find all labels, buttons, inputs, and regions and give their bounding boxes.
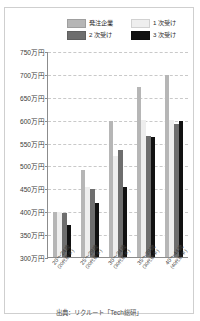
y-axis-tick [45,212,48,213]
chart-panel: 発注企業1 次受け2 次受け3 次受け 300万円350万円400万円450万円… [4,7,194,314]
y-axis-tick [45,98,48,99]
y-axis-tick [45,166,48,167]
bar [151,137,156,257]
y-axis-tick [45,144,48,145]
bar-groups [48,52,188,257]
legend-hacchu-kigyo: 発注企業 [67,19,131,28]
y-tick-label: 550万円 [20,139,45,149]
bar-group [81,52,99,257]
legend-3ji-uke-label: 3 次受け [153,32,176,38]
x-axis-labels: 20～24歳(20代前半)25～29歳(20代後半)30～34歳(30代前半)3… [47,260,188,308]
legend-1ji-uke-swatch [131,19,150,28]
y-tick-label: 650万円 [20,93,45,103]
source-note: 出典：リクルート「Tech総研」 [5,308,193,317]
legend-2ji-uke-label: 2 次受け [89,32,112,38]
legend-2ji-uke: 2 次受け [67,31,131,40]
chart-legend: 発注企業1 次受け2 次受け3 次受け [67,19,195,40]
bar-group [137,52,155,257]
plot-area [47,52,188,258]
legend-1ji-uke: 1 次受け [131,19,195,28]
y-tick-label: 300万円 [20,253,45,263]
bar-group [165,52,183,257]
bar-group [53,52,71,257]
y-tick-label: 500万円 [20,161,45,171]
bar-group [109,52,127,257]
y-tick-label: 700万円 [20,70,45,80]
y-tick-label: 400万円 [20,207,45,217]
legend-3ji-uke: 3 次受け [131,31,195,40]
y-axis-tick [45,75,48,76]
y-axis-tick [45,121,48,122]
y-axis-labels: 300万円350万円400万円450万円500万円550万円600万円650万円… [9,52,47,267]
y-tick-label: 350万円 [20,230,45,240]
y-tick-label: 450万円 [20,184,45,194]
legend-hacchu-kigyo-swatch [67,19,86,28]
y-axis-tick [45,189,48,190]
plot-area-wrapper: 300万円350万円400万円450万円500万円550万円600万円650万円… [9,52,191,267]
legend-hacchu-kigyo-label: 発注企業 [89,20,113,26]
y-tick-label: 750万円 [20,47,45,57]
legend-2ji-uke-swatch [67,31,86,40]
bar [179,121,184,257]
legend-1ji-uke-label: 1 次受け [153,20,176,26]
y-tick-label: 600万円 [20,116,45,126]
y-axis-tick [45,52,48,53]
y-axis-tick [45,235,48,236]
legend-3ji-uke-swatch [131,31,150,40]
y-axis-tick [45,258,48,259]
